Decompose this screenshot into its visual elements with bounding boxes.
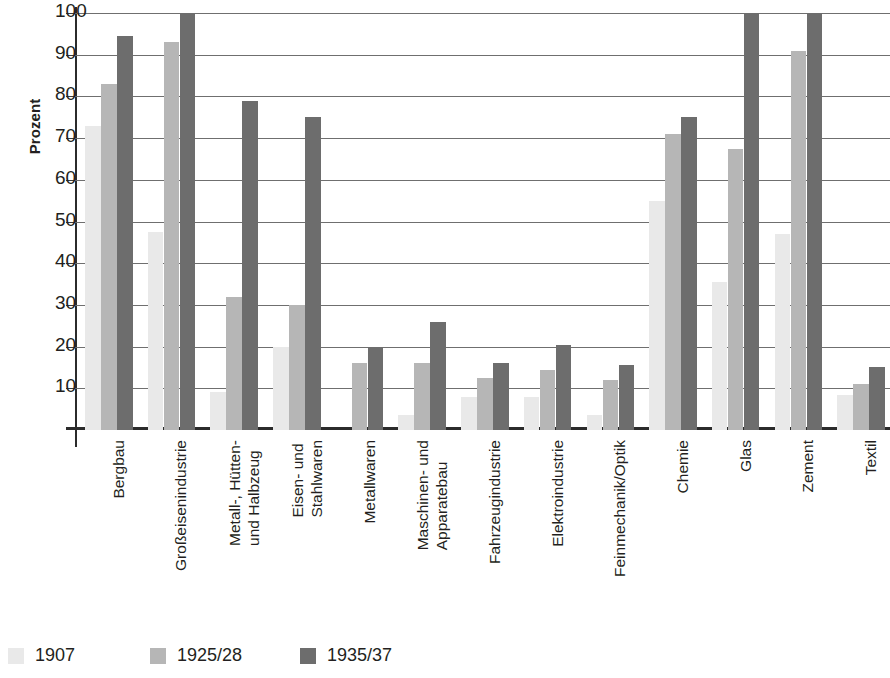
bar-group [649, 13, 697, 430]
bar [807, 13, 823, 430]
bar-chart: Prozent 102030405060708090100 BergbauGro… [0, 0, 890, 678]
legend-swatch [8, 648, 24, 664]
chart-legend: 19071925/281935/37 [0, 645, 890, 675]
x-axis-label-line: Feinmechanik/Optik [610, 440, 629, 577]
bar-group [336, 13, 384, 430]
plot-area: 102030405060708090100 [75, 13, 890, 430]
bar-group [587, 13, 635, 430]
bar-group [148, 13, 196, 430]
x-axis-category-labels: BergbauGroßeisenindustrieMetall-, Hütten… [75, 436, 890, 631]
bar [289, 305, 305, 430]
bar-group [210, 13, 258, 430]
bar [524, 397, 540, 430]
bar-group [524, 13, 572, 430]
x-axis-label: Textil [861, 440, 890, 459]
bar [712, 282, 728, 430]
bar-group [775, 13, 823, 430]
bar [775, 234, 791, 430]
bar [556, 345, 572, 430]
x-axis-label-line: Metall-, Hütten- [225, 440, 244, 546]
bar [869, 367, 885, 430]
bar-group [85, 13, 133, 430]
bar-group [398, 13, 446, 430]
x-axis-label: Bergbau [109, 440, 168, 459]
bar [414, 363, 430, 430]
x-axis-label-line: Fahrzeugindustrie [485, 440, 504, 564]
bar [744, 13, 760, 430]
bar [273, 347, 289, 430]
bar [352, 363, 368, 430]
bar [164, 42, 180, 430]
bar [791, 51, 807, 430]
bar [665, 134, 681, 430]
x-axis-label: Eisen- undStahlwaren [288, 440, 366, 478]
bar [242, 101, 258, 430]
x-axis-label-line: Textil [861, 440, 880, 475]
bar [148, 232, 164, 430]
bar [619, 365, 635, 430]
bar [540, 370, 556, 430]
bar-group [273, 13, 321, 430]
x-axis-label-line: Maschinen- und [413, 440, 432, 550]
legend-swatch [300, 648, 316, 664]
legend-item: 1925/28 [150, 645, 242, 666]
bar [226, 297, 242, 430]
bar [101, 84, 117, 430]
x-axis-label-line: Chemie [673, 440, 692, 493]
x-axis-label-line: und Halbzeug [244, 440, 263, 546]
x-axis-label: Glas [736, 440, 768, 459]
bar-groups [75, 13, 890, 430]
x-axis-label-line: Großeisenindustrie [171, 440, 190, 571]
bar [603, 380, 619, 430]
legend-item: 1935/37 [300, 645, 392, 666]
bar [493, 363, 509, 430]
legend-item: 1907 [8, 645, 75, 666]
x-axis-label-line: Zement [798, 440, 817, 493]
x-axis-label-line: Apparatebau [432, 440, 451, 550]
x-axis-label-line: Eisen- und [288, 440, 307, 518]
bar [837, 395, 853, 430]
bar [368, 347, 384, 430]
legend-label: 1935/37 [327, 645, 392, 666]
bar-group [712, 13, 760, 430]
bar [853, 384, 869, 430]
bar [477, 378, 493, 430]
legend-label: 1907 [35, 645, 75, 666]
x-axis-label-line: Glas [736, 440, 755, 472]
bar [461, 397, 477, 430]
x-axis-label: Zement [798, 440, 851, 459]
bar [117, 36, 133, 430]
bar [180, 13, 196, 430]
x-axis-label-line: Stahlwaren [307, 440, 326, 518]
bar [210, 392, 226, 430]
legend-swatch [150, 648, 166, 664]
bar [85, 126, 101, 430]
bar [305, 117, 321, 430]
bar [398, 415, 414, 430]
bar [430, 322, 446, 430]
bar [728, 149, 744, 430]
x-axis-label-line: Bergbau [109, 440, 128, 499]
bar-group [837, 13, 885, 430]
x-axis-label: Chemie [673, 440, 726, 459]
bar [649, 201, 665, 430]
y-axis-title: Prozent [26, 67, 43, 187]
legend-label: 1925/28 [177, 645, 242, 666]
bar [681, 117, 697, 430]
bar [587, 415, 603, 430]
x-axis-label-line: Metallwaren [360, 440, 379, 524]
bar-group [461, 13, 509, 430]
x-axis-label-line: Elektroindustrie [548, 440, 567, 547]
